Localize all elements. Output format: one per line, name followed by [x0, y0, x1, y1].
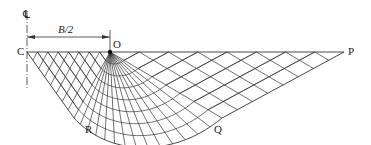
slip-line-mesh [27, 52, 344, 145]
centerline-label: ℄ [23, 9, 30, 20]
point-P-label: P [348, 46, 354, 57]
arrow-right-icon [102, 35, 110, 39]
point-C-label: C [17, 46, 24, 57]
point-Q-label: Q [214, 124, 222, 135]
slip-line-diagram: ℄ B/2 C O P R Q [0, 0, 371, 145]
point-O-marker [108, 50, 112, 54]
arrow-left-icon [27, 35, 35, 39]
point-R-label: R [85, 124, 92, 135]
slip-line-field [0, 0, 371, 145]
dimension-label: B/2 [58, 24, 73, 35]
point-O-label: O [113, 39, 121, 50]
